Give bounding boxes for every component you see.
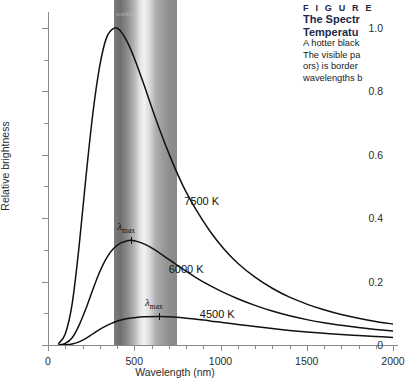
x-tick	[307, 345, 308, 351]
x-tick-minor	[169, 345, 170, 349]
x-tick-minor	[65, 345, 66, 349]
x-tick	[393, 345, 394, 351]
series-label-7500-k: 7500 K	[184, 195, 219, 207]
y-tick-label: 0.2	[368, 276, 383, 288]
x-tick-minor	[83, 345, 84, 349]
y-tick	[42, 28, 48, 29]
y-axis-title: Relative brightness	[0, 121, 11, 210]
caption-body-line-4: wavelengths b	[303, 73, 416, 85]
blackbody-spectrum-chart: visible 00.20.40.60.81.0 050010001500200…	[0, 0, 300, 383]
series-label-6000-k: 6000 K	[169, 263, 204, 275]
x-tick-minor	[203, 345, 204, 349]
x-tick	[221, 345, 222, 351]
figure-label: F I G U R E	[303, 3, 416, 13]
y-tick	[42, 282, 48, 283]
x-tick-label: 2000	[381, 355, 404, 367]
x-tick-minor	[290, 345, 291, 349]
x-tick-minor	[255, 345, 256, 349]
y-tick-minor	[44, 60, 48, 61]
figure-caption: F I G U R E The Spectr Temperatu A hotte…	[303, 0, 416, 120]
lambda-max-label: λmax	[117, 220, 135, 235]
x-tick-minor	[238, 345, 239, 349]
caption-title-line-1: The Spectr	[303, 13, 416, 26]
curve-4500k	[58, 316, 393, 345]
curve-6000k	[58, 240, 393, 345]
x-tick-label: 1500	[295, 355, 318, 367]
series-label-4500-k: 4500 K	[200, 308, 235, 320]
y-tick-label: 0	[377, 339, 383, 351]
x-tick-minor	[376, 345, 377, 349]
y-tick-minor	[44, 123, 48, 124]
x-tick-minor	[341, 345, 342, 349]
x-tick-minor	[152, 345, 153, 349]
x-axis-title: Wavelength (nm)	[135, 366, 215, 378]
x-tick-minor	[100, 345, 101, 349]
caption-body-line-1: A hotter black	[303, 38, 416, 50]
y-tick	[42, 218, 48, 219]
figure-root: visible 00.20.40.60.81.0 050010001500200…	[0, 0, 416, 383]
lambda-max-label: λmax	[145, 296, 163, 311]
lambda-max-tick	[159, 313, 160, 320]
x-tick	[48, 345, 49, 351]
x-tick	[134, 345, 135, 351]
y-tick-minor	[44, 313, 48, 314]
x-tick-minor	[186, 345, 187, 349]
caption-body-line-2: The visible pa	[303, 50, 416, 62]
x-tick-minor	[359, 345, 360, 349]
y-axis-line	[48, 12, 49, 345]
y-tick-minor	[44, 186, 48, 187]
y-tick	[42, 91, 48, 92]
y-tick-label: 0.4	[368, 212, 383, 224]
x-tick-minor	[117, 345, 118, 349]
x-tick-label: 0	[45, 355, 51, 367]
y-tick-label: 0.6	[368, 149, 383, 161]
caption-body-line-3: ors) is border	[303, 61, 416, 73]
y-tick	[42, 155, 48, 156]
y-tick-minor	[44, 250, 48, 251]
x-tick-minor	[324, 345, 325, 349]
lambda-max-tick	[131, 237, 132, 244]
x-tick-minor	[272, 345, 273, 349]
caption-title-line-2: Temperatu	[303, 26, 416, 39]
